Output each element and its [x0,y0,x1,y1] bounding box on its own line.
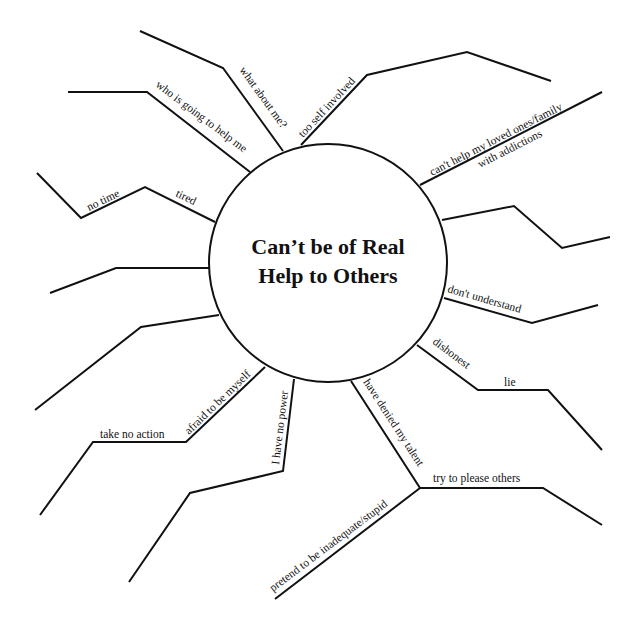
branch-left-lower-blank [35,315,219,410]
mind-map-diagram: Can’t be of Real Help to Others what abo… [0,0,640,639]
label-afraid-to-be-myself: afraid to be myself [182,368,253,438]
central-title-line2: Help to Others [258,263,398,288]
label-who-is-going-to-help-me: who is going to help me [153,78,249,155]
label-no-time: no time [85,187,122,213]
branch-dishonest-lie [417,345,602,450]
label-lie: lie [504,376,516,388]
label-cant-help-loved-ones: can't help my loved ones/family [427,100,564,178]
label-take-no-action: take no action [100,428,165,440]
label-dishonest: dishonest [431,335,474,371]
label-try-to-please-others: try to please others [433,472,521,485]
label-pretend-inadequate: pretend to be inadequate/stupid [267,497,390,594]
central-title-line1: Can’t be of Real [251,234,404,259]
label-have-denied-my-talent: have denied my talent [360,377,426,470]
branch-cant-help-loved-ones [420,92,602,185]
branch-dont-understand [444,298,598,323]
branch-pretend-inadequate [275,488,420,599]
branch-left-middle-blank [50,268,209,293]
label-too-self-involved: too self involved [296,74,358,139]
branch-right-upper-blank [442,206,610,248]
